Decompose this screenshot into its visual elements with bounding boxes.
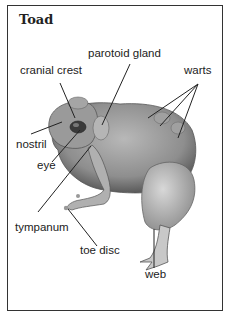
label-warts: warts bbox=[184, 64, 211, 76]
label-nostril: nostril bbox=[16, 138, 47, 150]
label-toe-disc: toe disc bbox=[80, 244, 120, 256]
label-eye: eye bbox=[37, 159, 56, 171]
label-cranial-crest: cranial crest bbox=[20, 64, 82, 76]
label-web: web bbox=[145, 268, 166, 280]
label-parotoid-gland: parotoid gland bbox=[88, 47, 161, 59]
label-tympanum: tympanum bbox=[15, 221, 69, 233]
